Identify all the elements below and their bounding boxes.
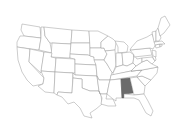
us-map: WashingtonOregonCaliforniaNevadaIdahoMon… [0,0,180,126]
state-colorado: Colorado [55,58,75,73]
state-new-york: New York [130,34,156,50]
state-mississippi: Mississippi [107,79,122,101]
state-rhode-island: Rhode Island [160,44,162,47]
state-florida: Florida [124,94,153,116]
state-michigan: Michigan [115,41,128,53]
state-kansas: Kansas [75,64,97,76]
state-wyoming: Wyoming [51,43,71,58]
state-new-mexico: New Mexico [54,72,73,95]
state-maine: Maine [158,16,170,36]
state-north-dakota: North Dakota [71,30,90,43]
